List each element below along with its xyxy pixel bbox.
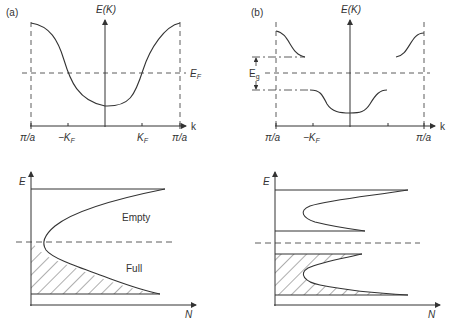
panel-c-y-axis-label: E	[19, 176, 26, 187]
panel-c-empty-label: Empty	[122, 212, 150, 223]
panel-b: (b) E(K) k Eg π/a −KF π/a	[249, 4, 446, 144]
panel-d-conduction-dos	[303, 190, 408, 231]
panel-b-tick-left: π/a	[265, 132, 280, 143]
panel-a-tick-left: π/a	[20, 132, 35, 143]
panel-b-label: (b)	[251, 7, 263, 18]
panel-a-tick-kf: KF	[137, 132, 149, 144]
panel-a-y-axis-label: E(K)	[96, 4, 116, 15]
panel-d: E N	[255, 172, 440, 320]
panel-b-tick-neg-kf: −KF	[303, 132, 321, 144]
panel-b-tick-right: π/a	[416, 132, 431, 143]
panel-b-gap-label: Eg	[249, 68, 260, 81]
panel-a-tick-right: π/a	[172, 132, 187, 143]
panel-b-lower-band	[310, 90, 387, 113]
panel-c-x-axis-label: N	[185, 309, 193, 320]
panel-a-tick-neg-kf: −KF	[58, 132, 76, 144]
panel-b-x-axis-label: k	[440, 121, 446, 132]
panel-a-label: (a)	[6, 7, 18, 18]
panel-b-upper-band-left	[276, 31, 305, 57]
panel-a: (a) E(K) k EF π/a −KF KF π/a	[6, 4, 202, 144]
panel-b-y-axis-label: E(K)	[341, 4, 361, 15]
panel-c: E N Empty Full	[16, 172, 196, 320]
panel-d-y-axis-label: E	[263, 176, 270, 187]
panel-a-fermi-label: EF	[190, 68, 202, 80]
panel-d-x-axis-label: N	[428, 309, 436, 320]
panel-b-upper-band-right	[396, 33, 424, 57]
panel-a-x-axis-label: k	[191, 121, 197, 132]
panel-c-full-label: Full	[126, 263, 142, 274]
band-structure-figure: (a) E(K) k EF π/a −KF KF π/a (b) E(K) k …	[0, 0, 449, 320]
